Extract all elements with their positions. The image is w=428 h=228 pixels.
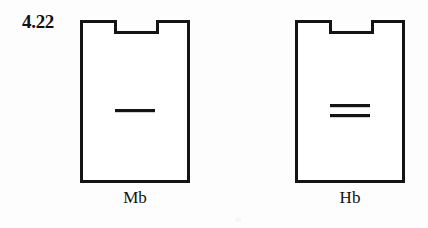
shape-outline-hb: [291, 16, 409, 186]
shape-group-mb: Mb: [76, 16, 194, 186]
shape-group-hb: Hb: [291, 16, 409, 186]
shape-caption-hb: Hb: [291, 186, 409, 210]
scan-artifact-speck: [235, 217, 241, 222]
shape-caption-mb: Mb: [76, 186, 194, 210]
notched-rectangle-path: [297, 22, 404, 182]
shape-outline-mb: [76, 16, 194, 186]
notched-rectangle-path: [82, 22, 189, 182]
figure-canvas: 4.22 Mb: [0, 0, 428, 228]
figure-number-label: 4.22: [22, 11, 54, 33]
single-dash-icon: [115, 109, 155, 112]
